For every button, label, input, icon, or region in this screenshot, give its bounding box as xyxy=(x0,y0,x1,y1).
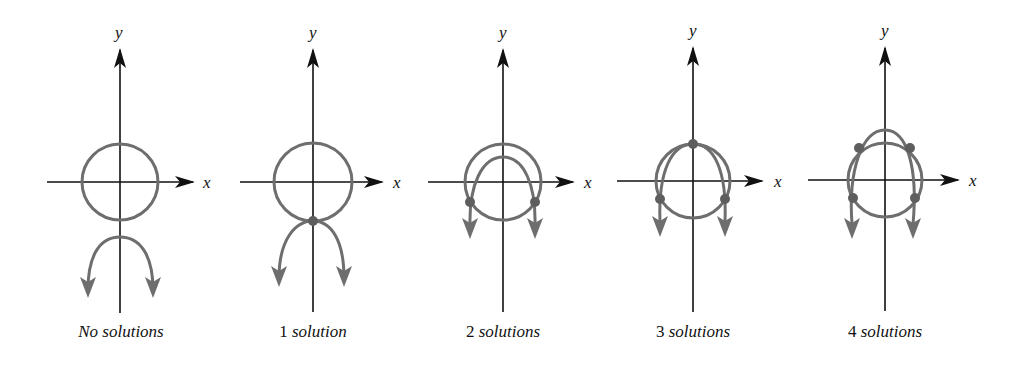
intersection-point xyxy=(655,194,665,204)
panel-three-solutions: x y xyxy=(617,21,782,312)
x-axis-label: x xyxy=(392,173,401,192)
y-axis-label: y xyxy=(113,23,123,42)
caption-word: solutions xyxy=(479,322,540,341)
caption-number: 2 xyxy=(466,322,475,341)
y-axis-label: y xyxy=(879,21,889,40)
parabola-curve xyxy=(279,221,344,278)
panel-one-solution: x y xyxy=(240,23,401,312)
caption-number: 4 xyxy=(848,322,857,341)
x-axis-label: x xyxy=(583,173,592,192)
intersection-point xyxy=(465,197,475,207)
intersection-point xyxy=(905,143,915,153)
caption-one-solution: 1 solution xyxy=(279,322,347,342)
intersection-point xyxy=(854,143,864,153)
panel-no-solutions: x y xyxy=(47,23,211,313)
intersection-point xyxy=(530,197,540,207)
x-axis-label: x xyxy=(968,171,977,190)
caption-word: No solutions xyxy=(78,322,164,341)
intersection-point xyxy=(910,193,920,203)
panel-two-solutions: x y xyxy=(428,23,592,312)
y-axis-label: y xyxy=(497,23,507,42)
panel-four-solutions: x y xyxy=(808,21,977,311)
y-axis-label: y xyxy=(307,23,317,42)
x-axis-label: x xyxy=(202,173,211,192)
caption-no-solutions: No solutions xyxy=(78,322,164,342)
caption-word: solutions xyxy=(861,322,922,341)
caption-three-solutions: 3 solutions xyxy=(656,322,730,342)
intersection-point xyxy=(720,194,730,204)
caption-word: solution xyxy=(292,322,347,341)
solutions-diagram: x y x y x y x y xyxy=(0,0,1026,368)
caption-four-solutions: 4 solutions xyxy=(848,322,922,342)
caption-word: solutions xyxy=(669,322,730,341)
y-axis-label: y xyxy=(687,21,697,40)
intersection-point xyxy=(688,139,698,149)
intersection-point xyxy=(848,193,858,203)
x-axis-label: x xyxy=(773,172,782,191)
caption-number: 1 xyxy=(279,322,288,341)
caption-two-solutions: 2 solutions xyxy=(466,322,540,342)
intersection-point xyxy=(308,216,318,226)
caption-number: 3 xyxy=(656,322,665,341)
